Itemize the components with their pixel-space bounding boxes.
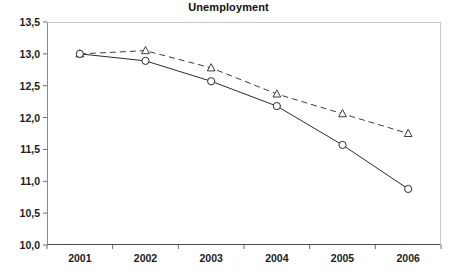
data-point-marker-circle (208, 78, 215, 85)
x-axis-tick-label: 2005 (310, 252, 376, 264)
x-axis-tick-label: 2004 (244, 252, 310, 264)
y-axis-tick-label: 12,5 (2, 80, 40, 92)
chart-plot-svg (0, 0, 457, 271)
y-axis-tick-label: 10,0 (2, 239, 40, 251)
data-point-marker-circle (273, 103, 280, 110)
y-axis-tick-label: 12,0 (2, 112, 40, 124)
x-axis-tick-label: 2001 (47, 252, 113, 264)
series-line-solid-circle-series (80, 54, 408, 189)
data-point-marker-circle (76, 50, 83, 57)
y-axis-tick-label: 10,5 (2, 207, 40, 219)
series-line-dashed-triangle-series (80, 51, 408, 134)
y-axis-tick-label: 11,5 (2, 143, 40, 155)
y-axis-tick-label: 13,5 (2, 16, 40, 28)
x-axis-tick-label: 2002 (113, 252, 179, 264)
data-point-marker-circle (405, 185, 412, 192)
data-point-marker-triangle (404, 129, 412, 136)
data-point-marker-circle (142, 57, 149, 64)
x-axis-tick-label: 2006 (375, 252, 441, 264)
data-point-marker-triangle (142, 46, 150, 53)
chart-container: Unemployment 10,010,511,011,512,012,513,… (0, 0, 457, 271)
data-point-marker-circle (339, 141, 346, 148)
y-axis-tick-label: 11,0 (2, 175, 40, 187)
y-axis-tick-label: 13,0 (2, 48, 40, 60)
x-axis-tick-label: 2003 (178, 252, 244, 264)
